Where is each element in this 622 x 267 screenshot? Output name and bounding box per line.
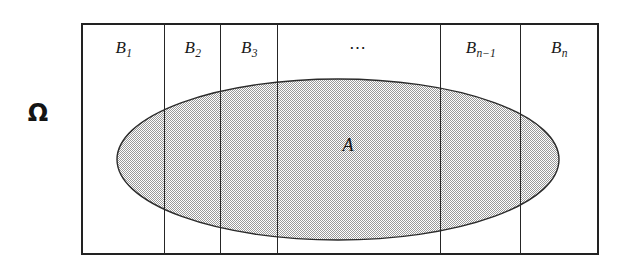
partition-label-bn-subscript: n	[562, 47, 568, 59]
partition-label-b3: B3	[221, 33, 277, 63]
partition-label-b3-base: B	[241, 38, 251, 57]
partition-label-b2-base: B	[184, 38, 194, 57]
event-a-ellipse	[116, 78, 560, 241]
partition-label-b1-subscript: 1	[126, 47, 132, 59]
partition-label-ellipsis: ⋯	[278, 33, 440, 63]
partition-label-bn-base: B	[551, 38, 561, 57]
partition-label-bn-1: Bn−1	[441, 33, 520, 63]
partition-label-b1: B1	[83, 33, 164, 63]
partition-diagram: Ω B1 B2 B3 ⋯ Bn−1 Bn A	[0, 0, 622, 267]
partition-label-bn: Bn	[521, 33, 597, 63]
partition-label-bn-1-subscript: n−1	[477, 47, 496, 59]
event-a-label: A	[318, 135, 378, 156]
partition-label-bn-1-base: B	[466, 38, 476, 57]
partition-label-b1-base: B	[115, 38, 125, 57]
partition-label-b2-subscript: 2	[195, 47, 201, 59]
partition-label-b3-subscript: 3	[252, 47, 258, 59]
sample-space-label: Ω	[18, 99, 58, 127]
partition-ellipsis-glyph: ⋯	[349, 38, 369, 57]
partition-label-b2: B2	[165, 33, 220, 63]
